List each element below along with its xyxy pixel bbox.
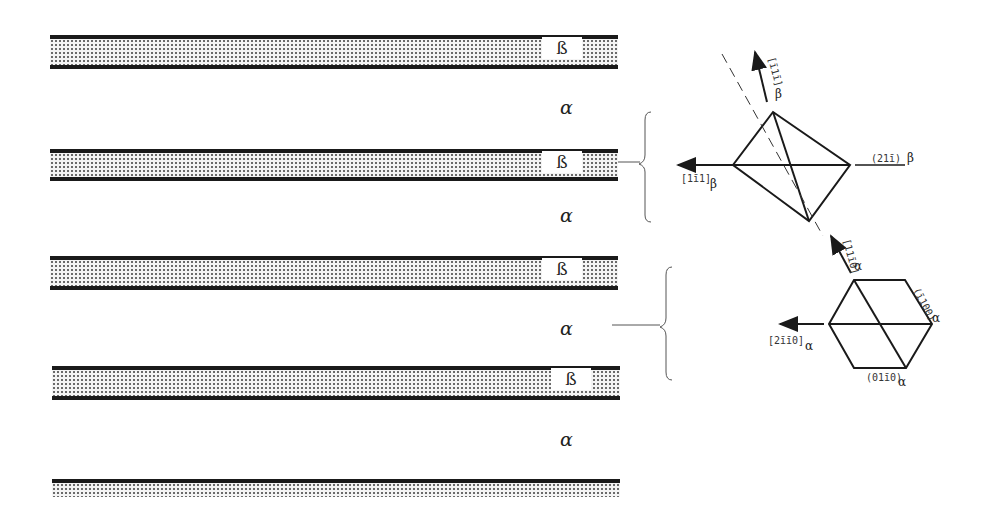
svg-text:α: α xyxy=(805,339,813,353)
arrow-beta-top xyxy=(755,52,767,102)
svg-text:α: α xyxy=(932,311,940,325)
brace-beta xyxy=(639,112,651,222)
brace-alpha xyxy=(660,267,672,380)
label-beta-right: (21ī) xyxy=(871,153,901,164)
label-alpha-left: [2īī0] xyxy=(768,335,804,346)
svg-text:α: α xyxy=(898,375,906,389)
svg-text:β: β xyxy=(710,177,717,191)
label-beta-left: [1ī1] xyxy=(681,173,711,184)
svg-text:α: α xyxy=(854,259,862,273)
crystal-orientation-diagram: [ī1ī] β [1ī1] β (21ī) β [11ī0] α [2īī0] … xyxy=(0,0,984,523)
svg-text:β: β xyxy=(907,151,914,165)
label-beta-top: [ī1ī] xyxy=(766,56,784,88)
svg-text:β: β xyxy=(775,87,782,101)
label-alpha-bottom: (01ī0) xyxy=(866,372,902,383)
beta-unit-cell xyxy=(733,112,850,221)
